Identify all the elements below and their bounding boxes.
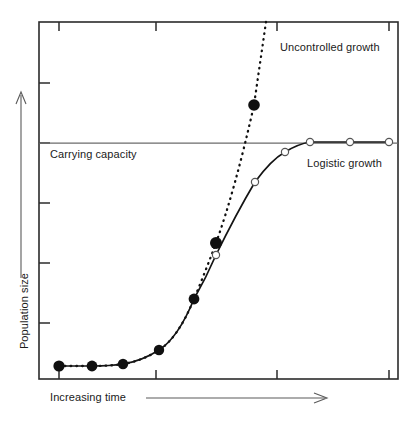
open-circle-marker [281, 148, 288, 155]
plot-frame [39, 22, 398, 379]
uncontrolled-growth-label: Uncontrolled growth [280, 41, 380, 53]
filled-circle-marker [210, 237, 222, 249]
x-axis-arrow [146, 393, 327, 403]
filled-circle-marker [53, 360, 64, 371]
logistic-growth-label: Logistic growth [307, 157, 382, 169]
open-circle-marker [306, 138, 313, 145]
carrying-capacity-label: Carrying capacity [50, 148, 137, 160]
open-circle-marker [212, 251, 219, 258]
population-growth-figure: Carrying capacity Uncontrolled growth Lo… [0, 0, 419, 423]
y-axis-label: Population size [18, 267, 30, 355]
chart-canvas [0, 0, 419, 423]
y-axis-arrow [16, 92, 26, 278]
filled-circle-marker [154, 345, 164, 355]
filled-circle-marker [87, 361, 98, 372]
x-axis-label: Increasing time [50, 391, 126, 403]
open-circle-marker [346, 138, 353, 145]
open-circle-marker [385, 138, 392, 145]
filled-circle-marker [118, 359, 128, 369]
filled-circle-marker [189, 294, 200, 305]
filled-circle-marker [248, 99, 260, 111]
open-circle-marker [251, 178, 258, 185]
